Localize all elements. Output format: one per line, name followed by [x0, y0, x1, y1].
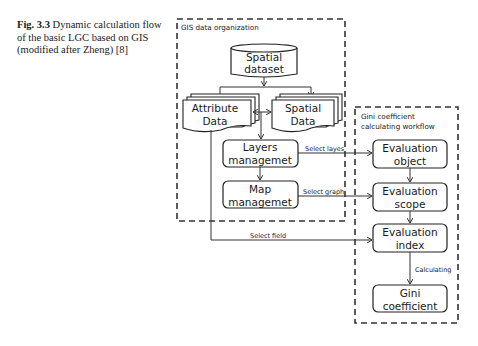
eval-index-line1: Evaluation: [382, 226, 437, 238]
gini-coef-line1: Gini: [400, 287, 421, 299]
edge-select-field-label: Select field: [250, 232, 286, 240]
group-gini-title-line1: Gini coefficient: [361, 112, 415, 121]
eval-object-line2: object: [394, 155, 426, 167]
spatial-data-line1: Spatial: [285, 102, 321, 114]
node-evaluation-scope: Evaluation scope: [373, 183, 447, 211]
edge-calculating: Calculating: [410, 252, 451, 284]
spatial-data-line2: Data: [290, 115, 315, 127]
eval-index-line2: index: [396, 239, 425, 251]
node-layers-management: Layers managemet: [223, 140, 298, 167]
attribute-data-line2: Data: [202, 115, 227, 127]
group-gis-title: GIS data organization: [181, 23, 259, 32]
edge-select-layers-label: Select layes: [305, 145, 345, 153]
edge-select-graph-label: Select graph: [303, 188, 344, 196]
edge-select-layers: Select layes: [298, 145, 372, 153]
layers-line2: managemet: [228, 154, 292, 166]
map-line2: managemet: [228, 196, 292, 208]
spatial-dataset-line2: dataset: [244, 63, 284, 75]
diagram: GIS data organization Gini coefficient c…: [0, 0, 478, 346]
eval-scope-line1: Evaluation: [382, 185, 437, 197]
node-spatial-dataset: Spatial dataset: [231, 44, 297, 77]
group-gini-title-line2: calculating workflow: [361, 122, 435, 131]
node-map-management: Map managemet: [223, 181, 298, 208]
spatial-dataset-line1: Spatial: [246, 51, 282, 63]
edge-select-graph: Select graph: [298, 188, 372, 196]
eval-object-line1: Evaluation: [382, 142, 437, 154]
node-attribute-data: Attribute Data: [183, 94, 259, 132]
node-spatial-data: Spatial Data: [272, 94, 342, 132]
attribute-data-line1: Attribute: [192, 102, 238, 114]
gini-coef-line2: coefficient: [383, 300, 438, 312]
node-evaluation-object: Evaluation object: [373, 140, 447, 168]
layers-line1: Layers: [243, 141, 278, 153]
eval-scope-line2: scope: [395, 198, 426, 210]
node-evaluation-index: Evaluation index: [373, 224, 447, 252]
node-gini-coefficient: Gini coefficient: [373, 285, 447, 312]
map-line1: Map: [249, 183, 271, 195]
edge-calculating-label: Calculating: [415, 266, 451, 274]
